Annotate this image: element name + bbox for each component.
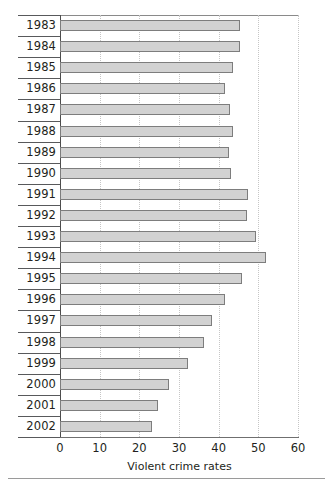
chart-row: 1985 (0, 57, 333, 78)
bar-1989 (60, 147, 229, 158)
x-tick-60: 60 (278, 441, 318, 455)
category-label-2001: 2001 (18, 395, 56, 416)
bar-1998 (60, 337, 204, 348)
chart-row: 1991 (0, 184, 333, 205)
bar-1983 (60, 20, 240, 31)
category-label-1991: 1991 (18, 184, 56, 205)
chart-row: 1994 (0, 247, 333, 268)
category-label-1998: 1998 (18, 332, 56, 353)
chart-row: 1992 (0, 205, 333, 226)
bar-1988 (60, 126, 233, 137)
category-label-1990: 1990 (18, 163, 56, 184)
chart-row: 1986 (0, 78, 333, 99)
category-label-1986: 1986 (18, 78, 56, 99)
bar-2001 (60, 400, 158, 411)
chart-row: 1995 (0, 268, 333, 289)
chart-row: 1997 (0, 310, 333, 331)
bar-1995 (60, 273, 242, 284)
bar-1987 (60, 104, 230, 115)
bar-1992 (60, 210, 247, 221)
chart-row: 2002 (0, 416, 333, 437)
category-label-1994: 1994 (18, 247, 56, 268)
x-tick-20: 20 (119, 441, 159, 455)
category-label-1996: 1996 (18, 289, 56, 310)
bar-1990 (60, 168, 231, 179)
violent-crime-rates-bar-chart: 1983198419851986198719881989199019911992… (0, 0, 333, 491)
bar-1986 (60, 83, 225, 94)
category-label-1995: 1995 (18, 268, 56, 289)
chart-row: 1983 (0, 15, 333, 36)
bar-1993 (60, 231, 256, 242)
chart-row: 1987 (0, 99, 333, 120)
figure-bottom-rule (8, 478, 325, 479)
bar-1999 (60, 358, 188, 369)
category-label-1992: 1992 (18, 205, 56, 226)
category-label-1993: 1993 (18, 226, 56, 247)
category-label-1983: 1983 (18, 15, 56, 36)
x-axis-title: Violent crime rates (60, 460, 299, 473)
chart-row: 2000 (0, 374, 333, 395)
chart-row: 1984 (0, 36, 333, 57)
category-label-1997: 1997 (18, 310, 56, 331)
category-label-2000: 2000 (18, 374, 56, 395)
bar-1984 (60, 41, 240, 52)
chart-row: 1988 (0, 121, 333, 142)
chart-row: 1998 (0, 332, 333, 353)
chart-row: 1989 (0, 142, 333, 163)
x-tick-40: 40 (199, 441, 239, 455)
x-tick-10: 10 (80, 441, 120, 455)
category-label-1989: 1989 (18, 142, 56, 163)
category-label-1999: 1999 (18, 353, 56, 374)
bar-1985 (60, 62, 233, 73)
category-label-1985: 1985 (18, 57, 56, 78)
x-axis-line (60, 437, 299, 438)
chart-row: 2001 (0, 395, 333, 416)
bar-1997 (60, 315, 212, 326)
bar-1994 (60, 252, 266, 263)
category-label-1984: 1984 (18, 36, 56, 57)
chart-row: 1996 (0, 289, 333, 310)
x-tick-0: 0 (40, 441, 80, 455)
category-label-2002: 2002 (18, 416, 56, 437)
chart-row: 1999 (0, 353, 333, 374)
bar-1991 (60, 189, 248, 200)
x-tick-30: 30 (159, 441, 199, 455)
row-separator (18, 437, 60, 438)
bar-2002 (60, 421, 152, 432)
chart-row: 1993 (0, 226, 333, 247)
category-label-1987: 1987 (18, 99, 56, 120)
x-tick-50: 50 (238, 441, 278, 455)
bar-2000 (60, 379, 169, 390)
bar-1996 (60, 294, 225, 305)
chart-row: 1990 (0, 163, 333, 184)
category-label-1988: 1988 (18, 121, 56, 142)
